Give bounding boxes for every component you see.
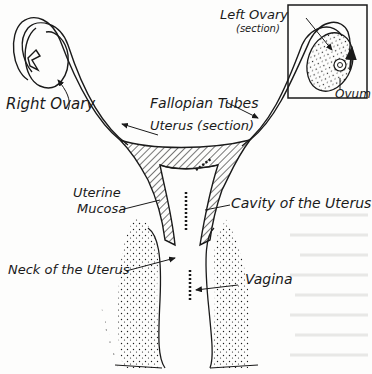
anatomy-drawing <box>0 0 372 374</box>
label-ovum: Ovum <box>335 88 371 100</box>
label-right-ovary: Right Ovary <box>6 97 95 112</box>
label-left-ovary-section: (section) <box>236 24 280 34</box>
label-uterine: Uterine <box>73 186 121 199</box>
label-left-ovary: Left Ovary <box>220 8 288 21</box>
label-uterus-section: Uterus (section) <box>150 119 254 132</box>
label-fallopian-tubes: Fallopian Tubes <box>150 96 258 110</box>
label-mucosa: Mucosa <box>77 202 126 215</box>
label-neck-of-uterus: Neck of the Uterus <box>8 263 130 276</box>
background-ghost-text <box>290 215 368 355</box>
label-vagina: Vagina <box>245 272 293 286</box>
right-ovary <box>25 28 68 88</box>
vagina-walls <box>100 218 258 368</box>
diagram-canvas: Right Ovary Left Ovary (section) Ovum Fa… <box>0 0 372 374</box>
label-cavity-of-uterus: Cavity of the Uterus <box>231 196 371 210</box>
